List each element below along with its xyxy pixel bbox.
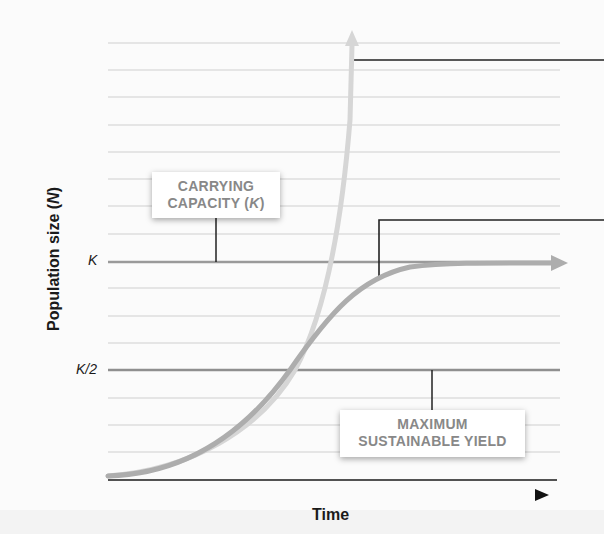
y-axis-label: Population size (N) bbox=[45, 169, 63, 349]
carrying-capacity-callout: CARRYING CAPACITY (K) bbox=[152, 172, 280, 218]
callout-line-1: CARRYING bbox=[152, 178, 280, 195]
callout-line-1: MAXIMUM bbox=[340, 416, 525, 433]
time-arrow bbox=[130, 489, 549, 501]
y-tick-k-half: K/2 bbox=[76, 361, 97, 377]
callout-line-2: CAPACITY (K) bbox=[152, 195, 280, 212]
x-axis-label: Time bbox=[312, 506, 349, 524]
callout-line-2: SUSTAINABLE YIELD bbox=[340, 433, 525, 450]
max-sustainable-yield-callout: MAXIMUM SUSTAINABLE YIELD bbox=[340, 410, 525, 457]
y-tick-k: K bbox=[88, 252, 97, 268]
